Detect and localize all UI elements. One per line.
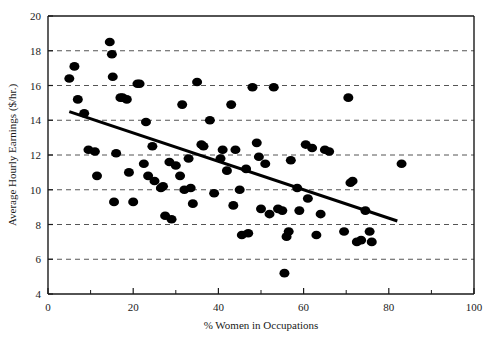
- data-point: [184, 154, 194, 163]
- data-point: [124, 168, 134, 177]
- data-point: [254, 152, 264, 161]
- x-axis-ticks: 020406080100: [45, 288, 483, 313]
- data-point: [90, 147, 100, 156]
- data-point: [286, 156, 296, 165]
- data-point: [177, 100, 187, 109]
- data-point: [109, 198, 119, 207]
- y-tick-label-4: 4: [36, 288, 42, 300]
- data-point: [105, 38, 115, 47]
- data-point: [256, 205, 266, 214]
- y-axis-ticks: 468101214161820: [30, 10, 53, 300]
- data-point: [158, 182, 168, 191]
- x-tick-label-40: 40: [213, 301, 225, 313]
- scatter-plot-figure: 468101214161820020406080100% Women in Oc…: [0, 0, 494, 340]
- data-point: [222, 166, 232, 175]
- data-point: [218, 145, 228, 154]
- data-point: [167, 215, 177, 224]
- y-tick-label-14: 14: [30, 114, 42, 126]
- data-points: [64, 38, 406, 278]
- data-point: [230, 145, 240, 154]
- data-point: [265, 210, 275, 219]
- data-point: [73, 95, 83, 104]
- data-point: [226, 100, 236, 109]
- data-point: [171, 161, 181, 170]
- data-point: [186, 184, 196, 193]
- data-point: [356, 236, 366, 245]
- x-tick-label-80: 80: [383, 301, 395, 313]
- y-axis-title: Average Hourly Earnings ($/hr.): [6, 84, 19, 226]
- x-axis-title: % Women in Occupations: [204, 319, 319, 331]
- data-point: [348, 177, 358, 186]
- x-tick-label-20: 20: [128, 301, 140, 313]
- data-point: [269, 83, 279, 92]
- data-point: [252, 139, 262, 148]
- data-point: [324, 147, 334, 156]
- data-point: [122, 95, 132, 104]
- data-point: [69, 62, 79, 71]
- data-point: [311, 231, 321, 240]
- y-tick-label-20: 20: [30, 10, 42, 22]
- x-tick-label-100: 100: [466, 301, 483, 313]
- data-point: [228, 201, 238, 210]
- data-point: [128, 198, 138, 207]
- y-tick-label-16: 16: [30, 80, 42, 92]
- data-point: [147, 142, 157, 151]
- chart-canvas: 468101214161820020406080100% Women in Oc…: [0, 0, 494, 340]
- data-point: [339, 227, 349, 236]
- data-point: [141, 118, 151, 127]
- y-tick-label-8: 8: [36, 219, 42, 231]
- x-tick-label-0: 0: [45, 301, 51, 313]
- data-point: [307, 144, 317, 153]
- data-point: [198, 142, 208, 151]
- y-tick-label-6: 6: [36, 253, 42, 265]
- data-point: [343, 93, 353, 102]
- data-point: [260, 159, 270, 168]
- data-point: [397, 159, 407, 168]
- data-point: [303, 194, 313, 203]
- data-point: [284, 227, 294, 236]
- x-tick-label-60: 60: [298, 301, 310, 313]
- data-point: [243, 229, 253, 238]
- data-point: [294, 206, 304, 215]
- data-point: [64, 74, 74, 83]
- data-point: [135, 79, 145, 88]
- data-point: [209, 189, 219, 198]
- y-tick-label-10: 10: [30, 184, 42, 196]
- y-tick-label-18: 18: [30, 45, 42, 57]
- data-point: [92, 172, 102, 181]
- data-point: [175, 172, 185, 181]
- data-point: [188, 199, 198, 208]
- data-point: [139, 159, 149, 168]
- data-point: [111, 149, 121, 158]
- data-point: [108, 73, 118, 82]
- data-point: [192, 78, 202, 87]
- data-point: [150, 177, 160, 186]
- data-point: [365, 227, 375, 236]
- data-point: [107, 50, 117, 59]
- data-point: [277, 206, 287, 215]
- data-point: [205, 116, 215, 125]
- y-tick-label-12: 12: [30, 149, 41, 161]
- data-point: [247, 83, 257, 92]
- data-point: [235, 185, 245, 194]
- data-point: [367, 238, 377, 247]
- data-point: [316, 210, 326, 219]
- data-point: [279, 269, 289, 278]
